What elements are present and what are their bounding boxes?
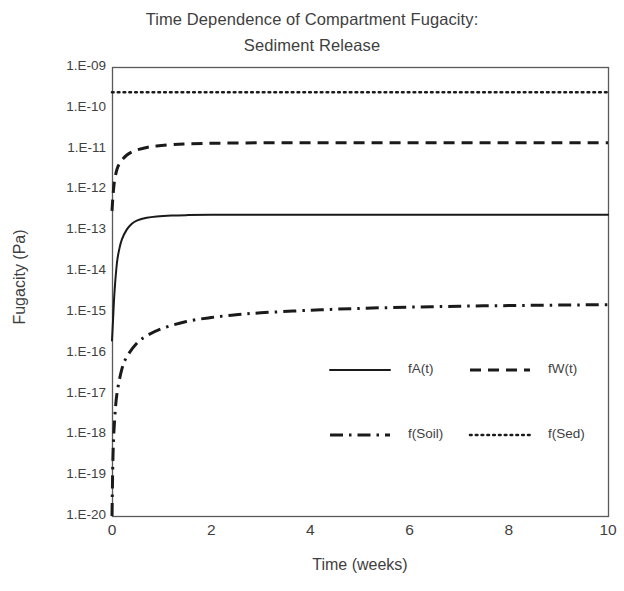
legend-label: fA(t) bbox=[408, 361, 434, 376]
legend-label: f(Sed) bbox=[548, 426, 585, 441]
series-line-fsoil bbox=[112, 305, 608, 516]
legend-label: fW(t) bbox=[548, 361, 577, 376]
plot-frame bbox=[113, 68, 609, 517]
chart-container: Time Dependence of Compartment Fugacity:… bbox=[0, 0, 624, 591]
plot-area bbox=[0, 0, 624, 591]
series-line-fwt bbox=[112, 143, 608, 211]
legend-label: f(Soil) bbox=[408, 426, 443, 441]
